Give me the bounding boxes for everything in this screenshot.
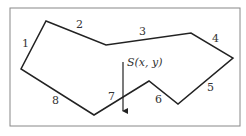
edge-label-2: 2 [76,18,83,31]
polygon-diagram: 12345678 S(x, y) [0,0,246,136]
edge-label-1: 1 [22,37,29,50]
edge-label-8: 8 [52,94,59,107]
edge-label-5: 5 [207,81,214,94]
diagram-canvas: 12345678 S(x, y) [0,0,246,136]
source-point-label: S(x, y) [127,56,163,69]
edge-label-7: 7 [108,90,115,103]
edge-label-6: 6 [155,93,162,106]
edge-label-3: 3 [139,25,146,38]
diagram-frame [10,8,240,126]
edge-label-4: 4 [212,32,219,45]
